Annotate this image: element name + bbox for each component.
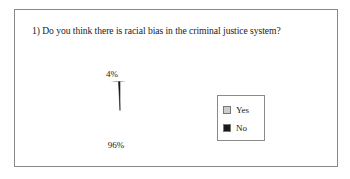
chart-legend: Yes No bbox=[217, 95, 265, 141]
page-title: 1) Do you think there is racial bias in … bbox=[32, 25, 324, 37]
pie-label-no: 4% bbox=[95, 69, 129, 79]
figure-frame: 1) Do you think there is racial bias in … bbox=[14, 9, 338, 167]
legend-item-no: No bbox=[223, 120, 264, 136]
pie-chart: 4% 96% bbox=[76, 72, 152, 157]
pie-label-yes: 96% bbox=[96, 140, 136, 150]
legend-item-yes: Yes bbox=[223, 102, 264, 118]
legend-swatch-yes-icon bbox=[223, 106, 231, 114]
pie-slice-no bbox=[119, 82, 120, 111]
legend-label-yes: Yes bbox=[236, 106, 249, 115]
legend-swatch-no-icon bbox=[223, 124, 231, 132]
legend-label-no: No bbox=[236, 124, 247, 133]
pie-svg bbox=[90, 81, 150, 140]
